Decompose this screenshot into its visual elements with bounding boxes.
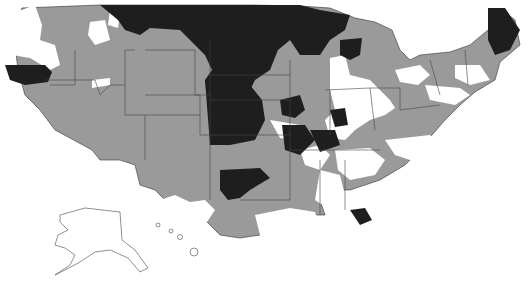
hawaii-islands xyxy=(156,223,198,256)
us-choropleth-map xyxy=(0,0,529,285)
alaska-outline xyxy=(55,208,148,275)
